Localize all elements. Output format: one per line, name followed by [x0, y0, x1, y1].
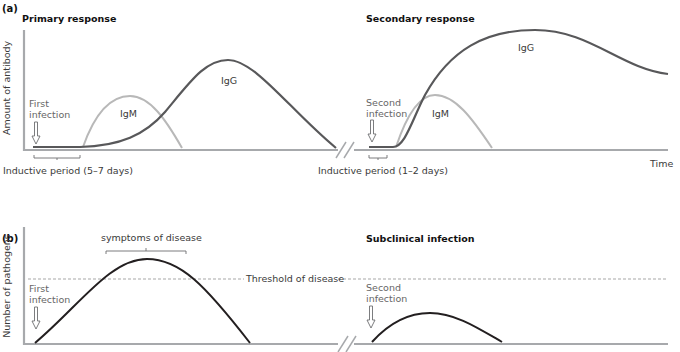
- down-arrow-icon: [32, 122, 40, 144]
- down-arrow-icon: [32, 307, 40, 329]
- subclinical-infection-title: Subclinical infection: [366, 233, 475, 244]
- second-infection-label-b: Second: [366, 282, 401, 293]
- axis-break-icon: [338, 336, 356, 352]
- panel-a-label: (a): [2, 3, 18, 14]
- down-arrow-icon: [368, 120, 376, 142]
- primary-igm-label: IgM: [120, 108, 137, 119]
- inductive-period-primary: Inductive period (5–7 days): [3, 165, 133, 176]
- inductive-bracket-primary: [34, 155, 80, 160]
- second-infection-label-a: Second: [366, 97, 401, 108]
- first-infection-label-a-2: infection: [29, 109, 70, 120]
- first-infection-label-b: First: [29, 283, 49, 294]
- secondary-igm-curve: [396, 95, 492, 148]
- primary-igm-curve: [83, 96, 182, 148]
- pathogen-curve-subclinical: [372, 313, 502, 342]
- symptoms-bracket: [106, 248, 186, 254]
- panel-b-axes: [23, 227, 668, 345]
- inductive-period-secondary: Inductive period (1–2 days): [318, 165, 448, 176]
- secondary-igg-label: IgG: [518, 42, 534, 53]
- axis-break-icon: [336, 142, 354, 158]
- second-infection-label-b-2: infection: [366, 293, 407, 304]
- symptoms-label: symptoms of disease: [101, 232, 202, 243]
- antibody-response-diagram: (a) Primary response Secondary response …: [0, 0, 680, 352]
- y-axis-label-pathogens: Number of pathogens: [1, 234, 12, 338]
- primary-igg-label: IgG: [221, 75, 237, 86]
- secondary-igm-label: IgM: [432, 108, 449, 119]
- threshold-label: Threshold of disease: [245, 273, 344, 284]
- y-axis-label-antibody: Amount of antibody: [1, 41, 12, 136]
- x-axis-label-time: Time: [649, 158, 673, 169]
- primary-igg-curve: [33, 60, 336, 148]
- inductive-bracket-secondary: [369, 155, 387, 160]
- primary-response-title: Primary response: [22, 13, 116, 24]
- first-infection-label-b-2: infection: [29, 294, 70, 305]
- secondary-response-title: Secondary response: [366, 13, 475, 24]
- down-arrow-icon: [367, 306, 375, 328]
- second-infection-label-a-2: infection: [366, 108, 407, 119]
- first-infection-label-a: First: [29, 98, 49, 109]
- panel-a-axes: [23, 30, 668, 151]
